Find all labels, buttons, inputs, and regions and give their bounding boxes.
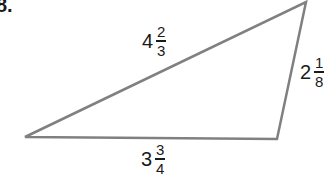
side-label-top: 4 2 3 xyxy=(142,24,166,58)
denominator: 8 xyxy=(315,74,323,89)
denominator: 3 xyxy=(157,43,165,58)
denominator: 4 xyxy=(156,161,164,176)
side-label-bottom: 3 3 4 xyxy=(141,142,165,176)
fraction: 3 4 xyxy=(155,142,165,176)
fraction: 2 3 xyxy=(156,24,166,58)
numerator: 1 xyxy=(315,55,323,70)
numerator: 2 xyxy=(157,24,165,39)
side-label-right: 2 1 8 xyxy=(300,55,324,89)
numerator: 3 xyxy=(156,142,164,157)
triangle xyxy=(25,2,306,139)
whole-number: 4 xyxy=(142,31,153,51)
fraction: 1 8 xyxy=(314,55,324,89)
whole-number: 2 xyxy=(300,62,311,82)
whole-number: 3 xyxy=(141,149,152,169)
